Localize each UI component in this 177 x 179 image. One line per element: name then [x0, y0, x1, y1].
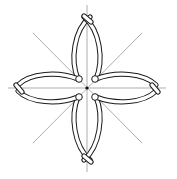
- hook-bottom-right: [92, 94, 99, 101]
- hook-top-right: [92, 76, 99, 83]
- hook-bottom-left: [76, 94, 83, 101]
- hook-top-left: [76, 76, 83, 83]
- quatrefoil-knot-diagram: [0, 0, 177, 179]
- center-point: [85, 86, 88, 89]
